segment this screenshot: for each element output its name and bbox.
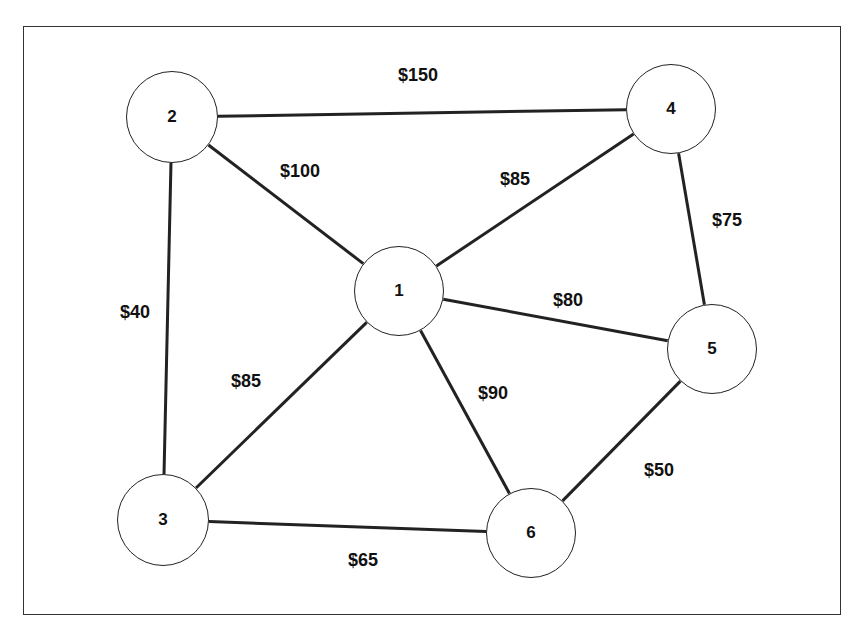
edge-2-4 xyxy=(218,110,626,117)
node-4: 4 xyxy=(626,64,716,154)
edge-2-3 xyxy=(164,163,171,474)
node-1: 1 xyxy=(354,246,444,336)
edge-cost-label: $40 xyxy=(120,302,150,323)
edge-cost-label: $80 xyxy=(553,290,583,311)
edge-3-6 xyxy=(209,522,486,532)
node-6: 6 xyxy=(486,488,576,578)
edge-cost-label: $85 xyxy=(231,371,261,392)
edge-cost-label: $90 xyxy=(478,383,508,404)
edge-cost-label: $85 xyxy=(500,169,530,190)
edge-1-4 xyxy=(436,134,633,266)
edge-cost-label: $75 xyxy=(712,210,742,231)
node-2: 2 xyxy=(126,71,218,163)
edge-1-3 xyxy=(196,322,367,488)
node-5: 5 xyxy=(667,304,757,394)
edge-4-5 xyxy=(679,153,705,304)
node-3: 3 xyxy=(117,474,209,566)
edge-cost-label: $150 xyxy=(398,65,438,86)
edge-5-6 xyxy=(563,381,681,501)
edge-cost-label: $65 xyxy=(348,550,378,571)
edge-cost-label: $50 xyxy=(644,460,674,481)
edge-cost-label: $100 xyxy=(280,161,320,182)
edge-1-6 xyxy=(421,331,510,494)
